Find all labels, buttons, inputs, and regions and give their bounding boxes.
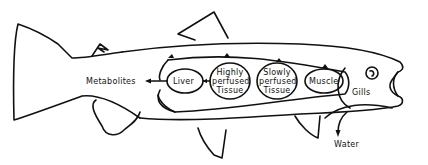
gills-label: Gills	[352, 88, 371, 97]
fish-pbpk-diagram: Metabolites Liver Highly perfused Tissue…	[0, 0, 428, 165]
slowly-perfused-label: Slowly perfused Tissue	[259, 68, 295, 95]
highly-perfused-label: Highly perfused Tissue	[212, 68, 248, 95]
metabolites-label: Metabolites	[86, 77, 136, 86]
muscle-label: Muscle	[309, 77, 338, 86]
water-label: Water	[334, 140, 359, 149]
liver-label: Liver	[173, 77, 194, 86]
